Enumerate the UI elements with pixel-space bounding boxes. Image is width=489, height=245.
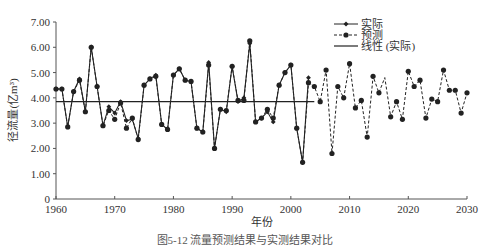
predicted-point <box>341 95 346 100</box>
x-tick-label: 1990 <box>221 203 244 215</box>
y-tick-label: 7.00 <box>31 16 51 28</box>
predicted-point <box>394 99 399 104</box>
predicted-point <box>435 99 440 104</box>
diamond-marker-icon <box>344 22 349 27</box>
legend-label-trend: 线性 (实际) <box>361 39 415 53</box>
actual-point <box>306 75 311 80</box>
actual-series <box>54 41 311 165</box>
x-tick-label: 1980 <box>162 203 185 215</box>
x-tick-label: 2020 <box>397 203 420 215</box>
x-tick-label: 2000 <box>280 203 303 215</box>
predicted-point <box>318 99 323 104</box>
y-tick-label: 1.00 <box>31 168 51 180</box>
predicted-point <box>370 74 375 79</box>
predicted-point <box>400 117 405 122</box>
predicted-point <box>329 151 334 156</box>
predicted-point <box>353 105 358 110</box>
predicted-point <box>376 90 381 95</box>
x-tick-label: 2030 <box>456 203 479 215</box>
chart-legend: 实际 预测 线性 (实际) <box>334 17 415 53</box>
predicted-point <box>453 88 458 93</box>
predicted-point <box>406 69 411 74</box>
predicted-point <box>441 67 446 72</box>
y-axis-title: 径流量(亿m³) <box>6 78 20 142</box>
y-tick-label: 4.00 <box>31 92 51 104</box>
actual-point <box>124 118 129 123</box>
predicted-point <box>447 88 452 93</box>
runoff-line-chart: 01.002.003.004.005.006.007.00 1960197019… <box>0 0 489 245</box>
actual-line <box>56 44 309 163</box>
predicted-point <box>312 84 317 89</box>
predicted-point <box>417 78 422 83</box>
circle-marker-icon <box>343 32 348 37</box>
legend-item-trend: 线性 (实际) <box>334 39 415 53</box>
y-tick-label: 2.00 <box>31 142 51 154</box>
x-tick-label: 2010 <box>339 203 362 215</box>
y-tick-label: 3.00 <box>31 117 51 129</box>
predicted-point <box>388 114 393 119</box>
predicted-point <box>335 84 340 89</box>
x-tick-label: 1970 <box>104 203 127 215</box>
predicted-point <box>347 61 352 66</box>
predicted-point <box>423 115 428 120</box>
predicted-point <box>112 117 117 122</box>
y-tick-label: 5.00 <box>31 67 51 79</box>
predicted-point <box>464 90 469 95</box>
figure-caption: 图5-12 流量预测结果与实测结果对比 <box>157 233 334 245</box>
predicted-point <box>365 134 370 139</box>
predicted-point <box>429 97 434 102</box>
y-tick-label: 6.00 <box>31 41 51 53</box>
predicted-point <box>124 126 129 131</box>
predicted-point <box>359 98 364 103</box>
predicted-point <box>323 67 328 72</box>
x-axis-title: 年份 <box>251 215 273 228</box>
predicted-point <box>412 84 417 89</box>
y-axis-ticks: 01.002.003.004.005.006.007.00 <box>31 16 56 205</box>
x-tick-label: 1960 <box>45 203 68 215</box>
predicted-point <box>459 110 464 115</box>
actual-point <box>271 119 276 124</box>
